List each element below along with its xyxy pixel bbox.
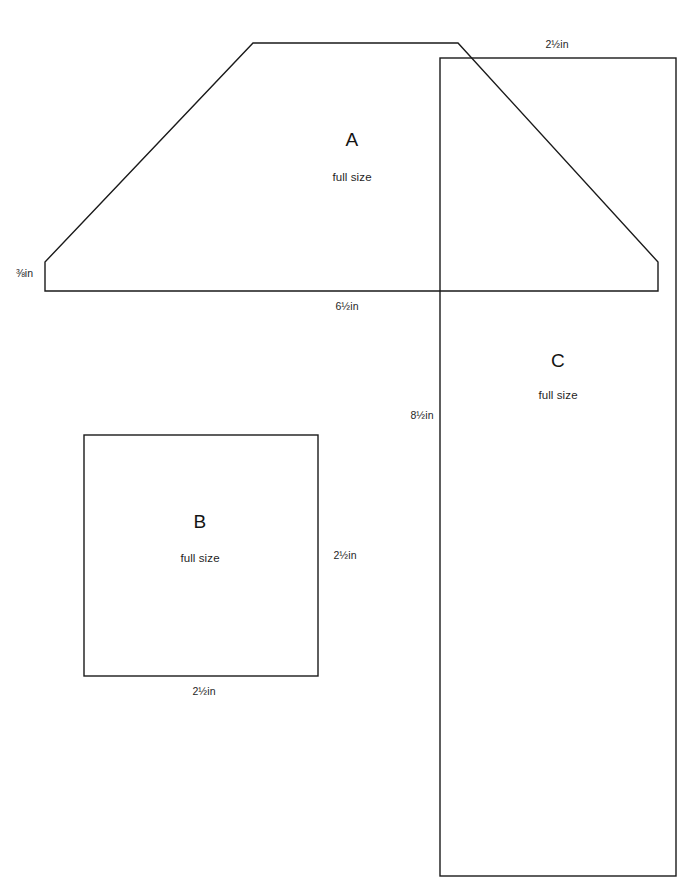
pattern-sheet: A full size ⅜in 6½in B full size 2½in 2½… <box>0 0 700 891</box>
piece-c-top-dimension: 2½in <box>545 39 568 50</box>
piece-a-bottom-dimension: 6½in <box>335 301 358 312</box>
piece-b-right-dimension: 2½in <box>333 550 356 561</box>
piece-b-letter: B <box>194 512 207 531</box>
piece-c-letter: C <box>551 351 565 370</box>
piece-a-left-dimension: ⅜in <box>16 268 33 279</box>
piece-c-scale-note: full size <box>538 390 577 402</box>
piece-b-bottom-dimension: 2½in <box>192 686 215 697</box>
piece-c-left-dimension: 8½in <box>410 410 433 421</box>
piece-b-scale-note: full size <box>180 553 219 565</box>
piece-c-outline <box>440 58 676 876</box>
piece-a-scale-note: full size <box>332 172 371 184</box>
piece-a-letter: A <box>346 130 359 149</box>
piece-a-outline <box>45 43 658 291</box>
